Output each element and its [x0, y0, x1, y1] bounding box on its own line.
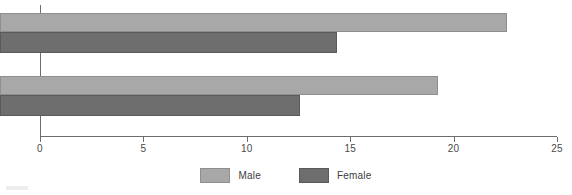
legend: Male Female: [0, 168, 572, 183]
bar-1987-female: [0, 32, 337, 53]
x-axis-line: [40, 136, 557, 137]
x-tick-5: [143, 137, 144, 142]
x-tick-25: [557, 137, 558, 142]
x-tick-label-20: 20: [448, 143, 460, 154]
bar-chart: 1987 1995 0 5 10 15 20 25 Male Female: [0, 0, 572, 195]
legend-item-male: Male: [200, 168, 260, 183]
x-tick-label-25: 25: [551, 143, 563, 154]
bar-1995-male: [0, 76, 438, 95]
legend-swatch-male-icon: [200, 168, 230, 183]
x-tick-label-5: 5: [141, 143, 147, 154]
legend-label-female: Female: [337, 170, 372, 181]
legend-swatch-female-icon: [299, 168, 329, 183]
legend-label-male: Male: [238, 170, 260, 181]
x-tick-20: [454, 137, 455, 142]
x-tick-10: [247, 137, 248, 142]
scan-artifact: [6, 186, 28, 190]
legend-item-female: Female: [299, 168, 372, 183]
bar-1987-male: [0, 13, 507, 32]
x-tick-label-15: 15: [344, 143, 356, 154]
bar-1995-female: [0, 95, 300, 116]
x-tick-label-0: 0: [37, 143, 43, 154]
x-tick-15: [350, 137, 351, 142]
x-tick-label-10: 10: [241, 143, 253, 154]
x-tick-0: [40, 137, 41, 142]
